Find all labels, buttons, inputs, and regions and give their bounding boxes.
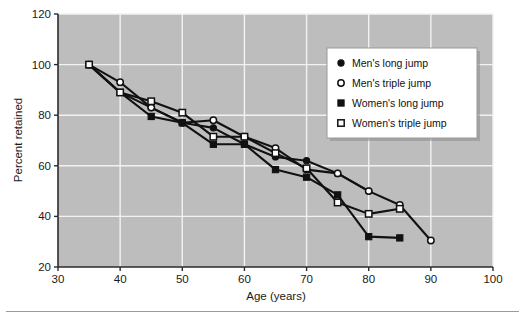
legend-label-0: Men's long jump: [352, 57, 428, 69]
data-point-1-1: [117, 79, 123, 85]
data-point-2-6: [272, 166, 278, 172]
data-point-1-2: [148, 104, 154, 110]
x-tick-label-1: 40: [114, 273, 127, 285]
x-tick-label-4: 70: [300, 273, 313, 285]
legend-marker-0: [338, 60, 344, 66]
data-point-1-4: [210, 117, 216, 123]
x-tick-label-5: 80: [362, 273, 375, 285]
data-point-1-11: [428, 237, 434, 243]
legend-label-1: Men's triple jump: [352, 77, 431, 89]
data-point-2-8: [335, 192, 341, 198]
data-point-2-9: [366, 234, 372, 240]
data-point-3-6: [272, 150, 278, 156]
data-point-1-9: [366, 188, 372, 194]
data-point-2-10: [397, 235, 403, 241]
x-tick-label-7: 100: [483, 273, 502, 285]
data-point-2-2: [148, 113, 154, 119]
data-point-3-5: [241, 134, 247, 140]
y-axis-title: Percent retained: [12, 98, 24, 182]
data-point-2-3: [179, 120, 185, 126]
data-point-3-1: [117, 89, 123, 95]
data-point-3-8: [334, 199, 340, 205]
chart-figure: 2040608010012030405060708090100 Men's lo…: [0, 0, 525, 320]
legend-marker-2: [338, 100, 344, 106]
data-point-3-2: [148, 98, 154, 104]
legend-label-3: Women's triple jump: [352, 117, 447, 129]
y-tick-label-2: 60: [38, 160, 51, 172]
x-tick-label-2: 50: [176, 273, 189, 285]
y-tick-label-0: 20: [38, 261, 51, 273]
x-tick-label-0: 30: [52, 273, 65, 285]
data-point-3-10: [397, 206, 403, 212]
data-point-3-9: [366, 211, 372, 217]
data-point-3-3: [179, 109, 185, 115]
data-point-3-4: [210, 134, 216, 140]
y-tick-label-1: 40: [38, 210, 51, 222]
x-axis-title: Age (years): [246, 290, 306, 302]
chart-canvas: 2040608010012030405060708090100 Men's lo…: [0, 0, 525, 320]
x-tick-label-6: 90: [424, 273, 437, 285]
x-tick-label-3: 60: [238, 273, 251, 285]
data-point-1-8: [334, 170, 340, 176]
data-point-2-5: [241, 141, 247, 147]
data-point-3-7: [303, 165, 309, 171]
legend-marker-3: [338, 120, 344, 126]
legend-marker-1: [338, 80, 344, 86]
data-point-0-7: [303, 158, 309, 164]
data-point-2-4: [210, 141, 216, 147]
data-point-0-4: [210, 125, 216, 131]
chart-legend: Men's long jumpMen's triple jumpWomen's …: [327, 48, 480, 141]
data-point-3-0: [86, 61, 92, 67]
legend-label-2: Women's long jump: [352, 97, 444, 109]
y-tick-label-3: 80: [38, 109, 51, 121]
y-tick-label-5: 120: [32, 8, 51, 20]
data-point-2-7: [303, 174, 309, 180]
y-tick-label-4: 100: [32, 59, 51, 71]
